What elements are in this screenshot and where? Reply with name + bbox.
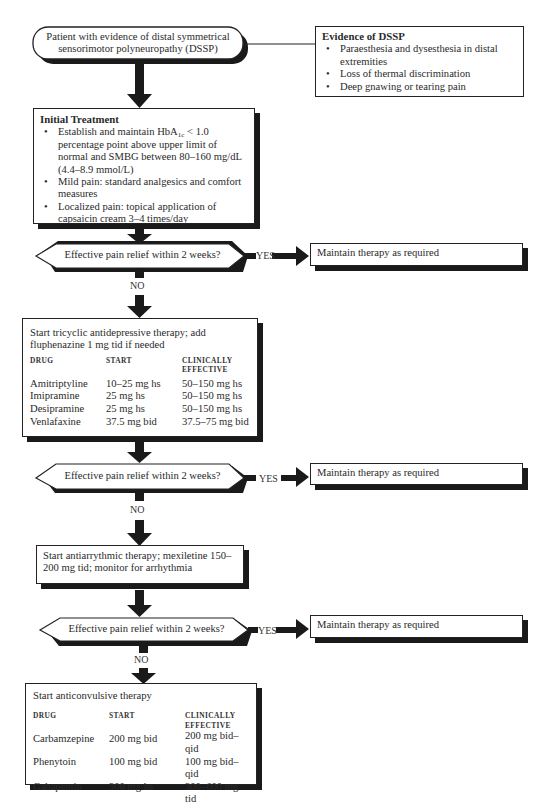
- start-node-line1: Patient with evidence of distal symmetri…: [33, 31, 243, 43]
- tricyclic-drug-table: DRUG START CLINICALLY EFFECTIVE Amitript…: [30, 356, 249, 428]
- header-clinically: CLINICALLY: [182, 356, 249, 366]
- decision-2-no-label: NO: [130, 504, 144, 515]
- header-clinically: CLINICALLY: [185, 711, 249, 721]
- start-dose: 25 mg hs: [106, 390, 182, 403]
- effective-dose: 50–150 mg hs: [182, 403, 249, 416]
- evidence-list: Paraesthesia and dysesthesia in distal e…: [322, 43, 517, 93]
- evidence-item: Loss of thermal discrimination: [340, 68, 517, 80]
- start-node: Patient with evidence of distal symmetri…: [33, 31, 243, 56]
- antiarrhythmic-therapy-box: Start antiarrythmic therapy; mexiletine …: [36, 545, 244, 584]
- hba1c-text: Establish and maintain HbA: [58, 126, 178, 137]
- table-row: Carbamzepine 200 mg bid 200 mg bid–qid: [33, 730, 249, 755]
- maintain-therapy-box-3: Maintain therapy as required: [310, 615, 523, 638]
- effective-dose: 50–150 mg hs: [182, 378, 249, 391]
- header-start: START: [109, 711, 185, 730]
- initial-treatment-item: Localized pain: topical application of c…: [58, 201, 248, 226]
- header-clinically-effective: CLINICALLY EFFECTIVE: [182, 356, 249, 378]
- header-drug: DRUG: [33, 711, 109, 730]
- decision-1-yes-label: YES: [256, 250, 275, 261]
- drug-name: Venlafaxine: [30, 416, 106, 429]
- initial-treatment-list: Establish and maintain HbA1c < 1.0 perce…: [40, 126, 248, 225]
- arrow-down-icon: [127, 441, 152, 463]
- arrow-right-icon: [272, 246, 309, 266]
- arrow-right-icon: [276, 619, 309, 639]
- table-header-row: DRUG START CLINICALLY EFFECTIVE: [30, 356, 249, 378]
- header-drug: DRUG: [30, 356, 106, 378]
- header-start: START: [106, 356, 182, 378]
- yes-connector: [244, 253, 256, 259]
- maintain-therapy-box-2: Maintain therapy as required: [310, 463, 523, 485]
- decision-3-yes-label: YES: [258, 625, 277, 636]
- anticonvulsive-intro: Start anticonvulsive therapy: [33, 690, 249, 702]
- table-row: Gabapentin 300 mg hs 300–600 mg tid: [33, 781, 249, 806]
- start-node-line2: sensorimotor polyneuropathy (DSSP): [33, 43, 243, 55]
- table-header-row: DRUG START CLINICALLY EFFECTIVE: [33, 711, 249, 730]
- initial-treatment-item: Establish and maintain HbA1c < 1.0 perce…: [58, 126, 248, 176]
- decision-3-question: Effective pain relief within 2 weeks?: [60, 623, 233, 634]
- start-dose: 10–25 mg hs: [106, 378, 182, 391]
- drug-name: Imipramine: [30, 390, 106, 403]
- arrow-down-icon: [127, 590, 152, 617]
- table-row: Venlafaxine 37.5 mg bid 37.5–75 mg bid: [30, 416, 249, 429]
- tricyclic-therapy-box: Start tricyclic antidepressive therapy; …: [22, 318, 258, 437]
- start-dose: 300 mg hs: [109, 781, 185, 806]
- table-row: Desipramine 25 mg hs 50–150 mg hs: [30, 403, 249, 416]
- arrow-down-icon: [127, 295, 152, 318]
- decision-1-no-label: NO: [130, 280, 144, 291]
- no-connector: [135, 489, 144, 501]
- evidence-item: Paraesthesia and dysesthesia in distal e…: [340, 43, 517, 68]
- tricyclic-intro: Start tricyclic antidepressive therapy; …: [30, 327, 250, 352]
- decision-2-question: Effective pain relief within 2 weeks?: [56, 470, 229, 481]
- arrow-down-icon: [127, 520, 152, 546]
- table-row: Imipramine 25 mg hs 50–150 mg hs: [30, 390, 249, 403]
- no-connector: [135, 268, 144, 278]
- yes-connector: [244, 475, 256, 481]
- no-connector: [139, 641, 148, 653]
- arrow-down-icon: [127, 62, 152, 108]
- start-dose: 100 mg bid: [109, 756, 185, 781]
- initial-treatment-item: Mild pain: standard analgesics and comfo…: [58, 176, 248, 201]
- decision-3-no-label: NO: [134, 654, 148, 665]
- anticonvulsive-drug-table: DRUG START CLINICALLY EFFECTIVE Carbamze…: [33, 711, 249, 806]
- arrow-down-icon: [131, 668, 156, 684]
- start-dose: 200 mg bid: [109, 730, 185, 755]
- antiarrhythmic-text: Start antiarrythmic therapy; mexiletine …: [43, 550, 231, 573]
- effective-dose: 37.5–75 mg bid: [182, 416, 249, 429]
- drug-name: Carbamzepine: [33, 730, 109, 755]
- table-row: Phenytoin 100 mg bid 100 mg bid–qid: [33, 756, 249, 781]
- start-dose: 37.5 mg bid: [106, 416, 182, 429]
- drug-name: Amitriptyline: [30, 378, 106, 391]
- header-effective: EFFECTIVE: [182, 365, 249, 375]
- evidence-title: Evidence of DSSP: [322, 30, 517, 42]
- table-row: Amitriptyline 10–25 mg hs 50–150 mg hs: [30, 378, 249, 391]
- evidence-item: Deep gnawing or tearing pain: [340, 81, 517, 93]
- maintain-therapy-text: Maintain therapy as required: [317, 467, 439, 478]
- maintain-therapy-text: Maintain therapy as required: [317, 619, 439, 630]
- effective-dose: 100 mg bid–qid: [185, 756, 249, 781]
- drug-name: Phenytoin: [33, 756, 109, 781]
- initial-treatment-box: Initial Treatment Establish and maintain…: [33, 108, 255, 224]
- effective-dose: 50–150 mg hs: [182, 390, 249, 403]
- maintain-therapy-box-1: Maintain therapy as required: [310, 243, 523, 266]
- initial-treatment-title: Initial Treatment: [40, 113, 248, 125]
- evidence-box: Evidence of DSSP Paraesthesia and dysest…: [315, 26, 524, 97]
- effective-dose: 300–600 mg tid: [185, 781, 249, 806]
- decision-1-question: Effective pain relief within 2 weeks?: [56, 249, 229, 260]
- decision-2-yes-label: YES: [259, 473, 278, 484]
- anticonvulsive-therapy-box: Start anticonvulsive therapy DRUG START …: [25, 683, 257, 785]
- start-dose: 25 mg hs: [106, 403, 182, 416]
- drug-name: Desipramine: [30, 403, 106, 416]
- maintain-therapy-text: Maintain therapy as required: [317, 247, 439, 258]
- header-effective: EFFECTIVE: [185, 721, 249, 731]
- arrow-right-icon: [281, 467, 309, 487]
- effective-dose: 200 mg bid–qid: [185, 730, 249, 755]
- header-clinically-effective: CLINICALLY EFFECTIVE: [185, 711, 249, 730]
- drug-name: Gabapentin: [33, 781, 109, 806]
- yes-connector: [248, 627, 258, 633]
